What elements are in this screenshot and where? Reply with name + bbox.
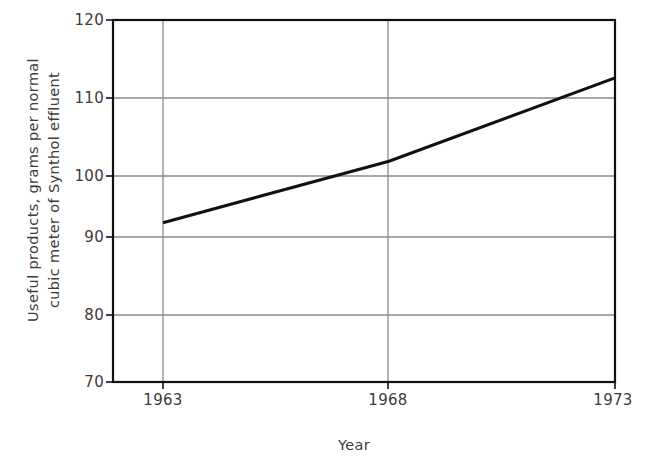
plot-area <box>0 0 649 466</box>
plot-background <box>113 20 615 382</box>
line-chart-figure: Useful products, grams per normal cubic … <box>0 0 649 466</box>
